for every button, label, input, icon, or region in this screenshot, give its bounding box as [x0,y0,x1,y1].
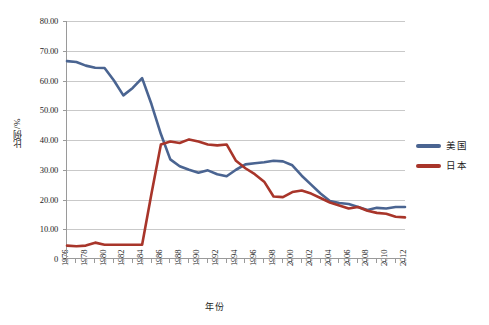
figure-container: 比例/% 010.0020.0030.0040.0050.0060.0070.0… [0,0,489,325]
x-axis-tick [94,259,95,263]
x-axis-title: 年份 [205,300,224,313]
x-axis-tick [338,259,339,263]
data-series-lines [67,21,405,259]
legend-label: 美国 [446,141,467,152]
x-axis-tick [244,259,245,263]
legend-label: 日本 [446,161,467,172]
y-axis-tick-label: 50.00 [0,106,58,115]
plot-area [66,21,404,259]
legend: 美国日本 [416,136,467,176]
legend-swatch-icon [416,164,441,168]
series-line-美国 [67,61,405,210]
y-axis-tick [63,259,67,260]
y-axis-tick-label: 0 [0,255,58,264]
x-axis-tick [301,259,302,263]
x-axis-tick [188,259,189,263]
x-axis-tick [75,259,76,263]
y-axis-tick-label: 20.00 [0,196,58,205]
x-axis-tick [357,259,358,263]
y-axis-tick-label: 30.00 [0,166,58,175]
x-axis-tick [282,259,283,263]
x-axis-tick [132,259,133,263]
x-axis-tick [113,259,114,263]
legend-swatch-icon [416,144,441,148]
y-axis-tick-label: 80.00 [0,17,58,26]
x-axis-tick [169,259,170,263]
x-axis-tick [376,259,377,263]
y-axis-tick-label: 70.00 [0,47,58,56]
y-axis-tick-label: 10.00 [0,225,58,234]
legend-item-美国[interactable]: 美国 [416,136,467,156]
x-axis-tick [151,259,152,263]
y-axis-tick-label: 40.00 [0,136,58,145]
x-axis-tick [207,259,208,263]
x-axis-tick [226,259,227,263]
x-axis-tick [320,259,321,263]
y-axis-tick-label: 60.00 [0,77,58,86]
x-axis-tick [395,259,396,263]
figure-caption [0,316,489,325]
series-line-日本 [67,139,405,246]
legend-item-日本[interactable]: 日本 [416,156,467,176]
x-axis-tick [263,259,264,263]
